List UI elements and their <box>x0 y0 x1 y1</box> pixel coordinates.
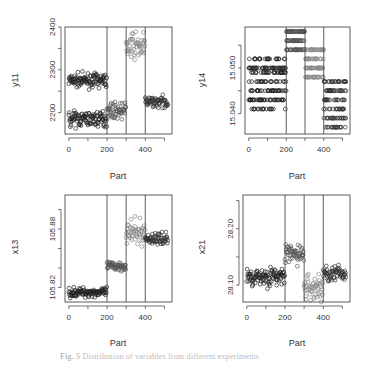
y-axis-label: y14 <box>197 73 207 88</box>
caption-label: Fig. 5 <box>60 352 80 361</box>
scatter-points-y14 <box>247 30 348 129</box>
scatter-points-x13 <box>67 215 170 300</box>
x-tick-label: 0 <box>247 145 252 154</box>
plot-box-x13 <box>65 195 172 302</box>
figure-caption: Fig. 5 Distribution of variables from di… <box>60 352 367 361</box>
y-tick-label: 15.040 <box>228 101 237 126</box>
x-axis-label: Part <box>289 171 306 181</box>
x-axis-label: Part <box>289 338 306 348</box>
scatter-points-y11 <box>67 30 170 130</box>
x-tick-label: 400 <box>139 313 153 322</box>
panel-y11: 220023002400 0200400 y11 Part <box>10 18 172 181</box>
x-tick-label: 200 <box>100 145 114 154</box>
y-axis-label: y11 <box>10 73 20 87</box>
vlines-y14 <box>286 27 324 134</box>
panel-y14: 15.04015.050 0200400 y14 Part <box>197 27 350 181</box>
y-axis-label: x21 <box>197 240 207 255</box>
y-tick-label: 105.82 <box>48 275 57 300</box>
y-axis-y11: 220023002400 <box>48 18 61 122</box>
panel-x21: 28.1028.20 0200400 x21 Part <box>197 195 350 348</box>
y-tick-label: 28.10 <box>226 275 235 296</box>
x-tick-label: 200 <box>278 313 292 322</box>
y-tick-label: 2400 <box>48 18 57 36</box>
scatter-points-x21 <box>245 243 348 304</box>
x-tick-label: 0 <box>67 313 72 322</box>
y-tick-label: 2200 <box>48 103 57 121</box>
x-tick-label: 0 <box>67 145 72 154</box>
x-axis-label: Part <box>110 171 127 181</box>
x-axis-x13: 0200400 <box>67 306 165 322</box>
y-tick-label: 105.88 <box>48 216 57 241</box>
x-axis-x21: 0200400 <box>245 306 343 322</box>
vlines-x13 <box>107 195 145 302</box>
x-tick-label: 400 <box>317 145 331 154</box>
x-tick-label: 400 <box>317 313 331 322</box>
y-axis-x21: 28.1028.20 <box>226 201 239 295</box>
x-tick-label: 400 <box>139 145 153 154</box>
y-axis-x13: 105.82105.88 <box>48 210 61 300</box>
y-axis-y14: 15.04015.050 <box>228 45 241 126</box>
y-tick-label: 2300 <box>48 60 57 78</box>
y-axis-label: x13 <box>10 240 20 255</box>
figure: 220023002400 0200400 y11 Part 15.04015.0… <box>0 0 367 366</box>
y-tick-label: 15.050 <box>228 55 237 80</box>
x-axis-y11: 0200400 <box>67 138 165 154</box>
x-tick-label: 200 <box>100 313 114 322</box>
y-tick-label: 28.20 <box>226 218 235 239</box>
x-axis-y14: 0200400 <box>247 138 343 154</box>
x-tick-label: 200 <box>280 145 294 154</box>
panel-x13: 105.82105.88 0200400 x13 Part <box>10 195 172 348</box>
caption-text: Distribution of variables from different… <box>83 352 260 361</box>
x-tick-label: 0 <box>245 313 250 322</box>
x-axis-label: Part <box>110 338 127 348</box>
